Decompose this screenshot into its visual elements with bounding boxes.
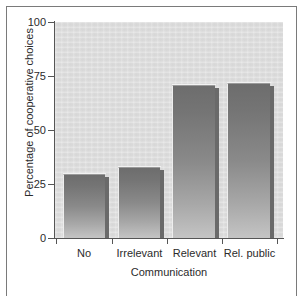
bar-rel-public — [227, 83, 270, 238]
bar-irrelevant — [118, 167, 160, 238]
y-tick-mark-75 — [48, 76, 54, 77]
y-tick-mark-25 — [48, 184, 54, 185]
x-tick-mark-1 — [112, 238, 113, 244]
bar-irrelevant-shadow — [160, 170, 164, 238]
y-tick-label-0: 0 — [0, 233, 46, 244]
y-tick-mark-50 — [48, 130, 54, 131]
x-tick-label-relevant: Relevant — [167, 248, 222, 259]
bar-no-highlight — [63, 173, 106, 174]
y-tick-mark-100 — [48, 22, 54, 23]
bar-irrelevant-highlight — [118, 166, 161, 167]
y-axis-line — [54, 21, 55, 239]
bar-relevant-shadow — [215, 88, 219, 238]
x-tick-label-no: No — [56, 248, 112, 259]
bar-rel-public-highlight — [227, 82, 271, 83]
bar-no-shadow — [105, 177, 109, 238]
y-tick-mark-0 — [48, 238, 54, 239]
x-tick-label-rel-public: Rel. public — [222, 248, 277, 259]
x-tick-mark-0 — [56, 238, 57, 244]
x-tick-mark-2 — [167, 238, 168, 244]
bar-relevant — [172, 85, 215, 238]
bar-relevant-highlight — [172, 84, 216, 85]
x-tick-mark-3 — [222, 238, 223, 244]
x-tick-label-irrelevant: Irrelevant — [112, 248, 167, 259]
bar-no — [63, 174, 105, 238]
bar-rel-public-shadow — [270, 86, 274, 238]
x-tick-mark-4 — [277, 238, 278, 244]
y-axis-title: Percentage of cooperative choices — [24, 18, 35, 208]
x-axis-title: Communication — [55, 267, 283, 278]
x-axis-line — [54, 238, 284, 239]
